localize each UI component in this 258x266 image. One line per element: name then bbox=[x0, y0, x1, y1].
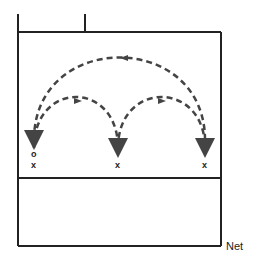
arrow-icon bbox=[158, 98, 166, 104]
movement-paths bbox=[34, 58, 205, 149]
player-right-marker: x bbox=[202, 161, 207, 170]
net-label: Net bbox=[226, 240, 243, 252]
arrow-icon bbox=[120, 55, 128, 61]
player-middle-marker: x bbox=[115, 161, 120, 170]
path-left-to-middle bbox=[34, 97, 118, 148]
court-diagram bbox=[0, 0, 258, 266]
path-middle-to-right bbox=[118, 97, 205, 148]
start-circle-marker: o bbox=[31, 150, 37, 159]
court-lines bbox=[18, 14, 221, 246]
player-left-marker: x bbox=[31, 161, 36, 170]
path-right-to-left bbox=[34, 58, 205, 141]
arrow-icon bbox=[74, 98, 82, 104]
